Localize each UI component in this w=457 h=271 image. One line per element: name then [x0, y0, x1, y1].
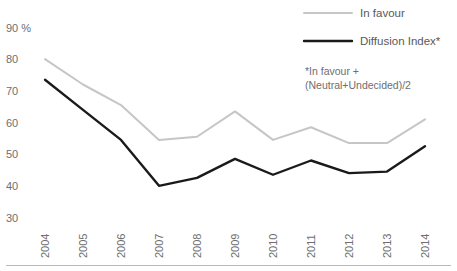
- x-tick-label: 2007: [153, 234, 165, 258]
- legend-label-in-favour: In favour: [360, 7, 405, 19]
- footnote-line-1: *In favour +: [305, 65, 359, 77]
- y-tick-label: 60: [6, 117, 18, 129]
- y-tick-label: 80: [6, 53, 18, 65]
- y-tick-label: 90 %: [6, 22, 31, 34]
- legend-label-diffusion-index: Diffusion Index*: [360, 35, 441, 47]
- x-tick-label: 2005: [77, 234, 89, 258]
- y-tick-label: 30: [6, 212, 18, 224]
- chart-container: 90 %807060504030 20042005200620072008200…: [0, 0, 457, 271]
- x-tick-label: 2013: [381, 234, 393, 258]
- line-chart: 90 %807060504030 20042005200620072008200…: [0, 0, 457, 271]
- y-tick-label: 40: [6, 180, 18, 192]
- x-tick-label: 2008: [191, 234, 203, 258]
- y-tick-label: 70: [6, 85, 18, 97]
- series-line-in-favour: [45, 59, 425, 143]
- x-tick-label: 2006: [115, 234, 127, 258]
- x-tick-label: 2009: [229, 234, 241, 258]
- y-axis-tick-labels: 90 %807060504030: [6, 22, 31, 224]
- x-tick-label: 2010: [267, 234, 279, 258]
- x-axis-tick-labels: 2004200520062007200820092010201120122013…: [39, 234, 431, 258]
- chart-legend: In favourDiffusion Index*: [304, 7, 441, 47]
- x-tick-label: 2014: [419, 234, 431, 258]
- x-tick-label: 2004: [39, 234, 51, 258]
- x-tick-label: 2011: [305, 234, 317, 258]
- x-tick-label: 2012: [343, 234, 355, 258]
- footnote-line-2: (Neutral+Undecided)/2: [305, 79, 411, 91]
- y-tick-label: 50: [6, 148, 18, 160]
